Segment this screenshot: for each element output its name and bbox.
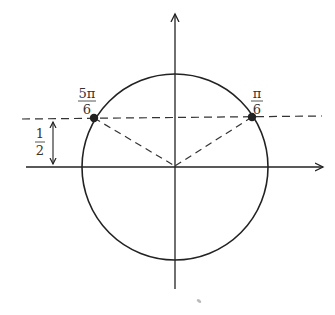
radius-5pi-6 bbox=[94, 118, 175, 166]
svg-text:5π: 5π bbox=[79, 86, 96, 101]
label-one-half: 1 2 bbox=[35, 126, 45, 158]
svg-text:2: 2 bbox=[36, 143, 44, 158]
scan-smudge bbox=[196, 298, 202, 303]
radius-pi-6 bbox=[175, 117, 252, 166]
svg-text:1: 1 bbox=[36, 126, 44, 141]
unit-circle-diagram: 5π 6 π 6 1 2 bbox=[0, 0, 335, 315]
dashed-line-y-half bbox=[22, 116, 322, 119]
svg-text:6: 6 bbox=[253, 102, 261, 117]
label-pi-6: π 6 bbox=[251, 86, 263, 117]
label-5pi-6: 5π 6 bbox=[78, 86, 96, 117]
svg-text:6: 6 bbox=[83, 102, 91, 117]
svg-text:π: π bbox=[253, 86, 262, 101]
